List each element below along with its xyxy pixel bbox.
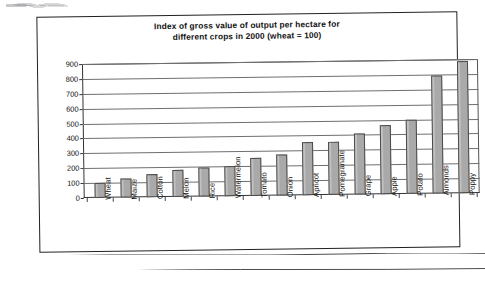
x-label-apple: Apple (389, 176, 398, 196)
x-label-slot: Apple (373, 196, 400, 260)
x-label-cotton: Cotton (155, 176, 164, 199)
y-tick-label: 100 (67, 179, 79, 188)
x-label-watermelon: Watermelon (233, 156, 243, 198)
x-label-potato: Potato (415, 173, 424, 196)
bar-slot (267, 61, 295, 195)
scan-artifact-wave-2 (100, 268, 485, 270)
x-label-tomato: Tomato (259, 172, 268, 198)
chart-title: Index of gross value of output per hecta… (37, 17, 456, 44)
y-tick-label: 700 (66, 89, 78, 98)
x-label-slot: Apricot (295, 197, 322, 261)
y-tick-label: 600 (66, 104, 78, 113)
y-tick-label: 0 (76, 194, 80, 203)
scanned-chart-sheet: Index of gross value of output per hecta… (0, 0, 485, 284)
x-label-wheat: Wheat (103, 177, 112, 200)
y-tick-label: 500 (66, 119, 78, 128)
x-label-poppy: Poppy (467, 173, 476, 195)
x-label-slot: Potato (399, 196, 426, 260)
x-label-apricot: Apricot (311, 173, 320, 197)
x-label-almonds: Almonds (441, 165, 450, 195)
bar-slot (111, 63, 139, 197)
y-tick-label: 400 (67, 134, 79, 143)
bar-slot (371, 60, 399, 194)
bar-slot (189, 62, 217, 196)
x-label-slot: Onion (269, 197, 296, 261)
x-label-grape: Grape (363, 175, 372, 197)
scan-artifact-wave-1 (30, 253, 485, 255)
y-tick-label: 800 (66, 75, 78, 84)
x-label-rice: Rice (208, 183, 217, 199)
x-label-onion: Onion (285, 177, 294, 198)
x-label-slot: Almonds (425, 195, 452, 259)
y-tick-label: 900 (66, 60, 78, 69)
x-label-slot: Poppy (451, 195, 478, 259)
x-label-maize: Maize (129, 179, 138, 200)
chart-frame: Index of gross value of output per hecta… (36, 11, 460, 252)
y-tick-label: 300 (67, 149, 79, 158)
x-label-melon: Melon (181, 177, 190, 198)
y-tick-label: 200 (67, 164, 79, 173)
x-label-pomegranate: Pomegranate (337, 150, 347, 197)
x-label-slot: Pomegranate (321, 197, 348, 261)
x-label-slot: Grape (347, 196, 374, 260)
